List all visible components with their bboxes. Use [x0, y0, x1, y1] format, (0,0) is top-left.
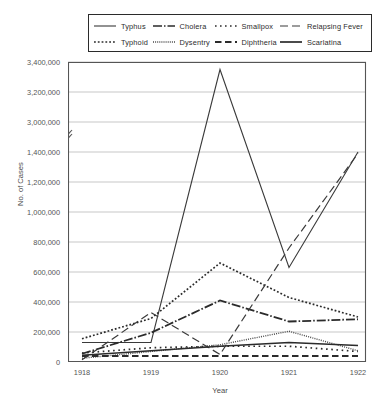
legend-item-typhus: Typhus: [94, 18, 153, 34]
legend-row-2: Typhoid Dysentry Diphtheria Scarlatina: [94, 34, 366, 50]
x-tick-label: 1921: [281, 368, 297, 377]
plot-canvas: [68, 56, 372, 362]
chart-legend: Typhus Cholera Smallpox Relapsing Fever: [88, 14, 372, 52]
line-loose-dotted-swatch: [215, 22, 237, 30]
epidemic-cases-line-chart: Typhus Cholera Smallpox Relapsing Fever: [0, 0, 390, 411]
series-line-relapsing-fever: [82, 154, 358, 360]
legend-label-scarlatina: Scarlatina: [307, 38, 341, 47]
legend-item-relapsing-fever: Relapsing Fever: [280, 18, 366, 34]
legend-row-1: Typhus Cholera Smallpox Relapsing Fever: [94, 18, 366, 34]
line-fine-dotted-swatch: [153, 38, 175, 46]
line-dotted-swatch: [94, 38, 116, 46]
x-tick-label: 1919: [143, 368, 159, 377]
legend-item-smallpox: Smallpox: [215, 18, 280, 34]
y-tick-label: 0: [56, 358, 66, 367]
legend-label-typhus: Typhus: [121, 22, 146, 31]
x-tick-label: 1920: [212, 368, 228, 377]
line-solid-thin-swatch: [280, 38, 302, 46]
y-tick-label: 400,000: [33, 298, 66, 307]
series-line-dysentry: [82, 331, 358, 358]
line-solid-swatch: [94, 22, 116, 30]
plot-area: 0200,000400,000600,000800,0001,000,0001,…: [68, 56, 372, 362]
y-tick-label: 3,400,000: [27, 58, 66, 67]
x-axis-title: Year: [68, 386, 372, 395]
legend-label-dysentry: Dysentry: [180, 38, 210, 47]
legend-label-cholera: Cholera: [180, 22, 207, 31]
legend-label-diphtheria: Diphtheria: [242, 38, 277, 47]
x-tick-label: 1922: [350, 368, 366, 377]
line-dashdot-swatch: [153, 22, 175, 30]
legend-label-typhoid: Typhoid: [121, 38, 148, 47]
y-axis-title: No. of Cases: [16, 162, 25, 206]
y-tick-label: 800,000: [33, 238, 66, 247]
series-line-typhus: [82, 70, 358, 343]
x-tick-label: 1918: [74, 368, 90, 377]
y-tick-label: 600,000: [33, 268, 66, 277]
y-tick-label: 1,200,000: [27, 178, 66, 187]
y-tick-label: 1,400,000: [27, 148, 66, 157]
line-dashed-thick-swatch: [215, 38, 237, 46]
legend-item-scarlatina: Scarlatina: [280, 34, 366, 50]
legend-label-relapsing-fever: Relapsing Fever: [307, 22, 363, 31]
legend-item-cholera: Cholera: [153, 18, 215, 34]
legend-label-smallpox: Smallpox: [242, 22, 274, 31]
line-long-dashed-swatch: [280, 22, 302, 30]
legend-item-typhoid: Typhoid: [94, 34, 153, 50]
y-tick-label: 200,000: [33, 328, 66, 337]
y-tick-label: 3,200,000: [27, 88, 66, 97]
y-tick-label: 1,000,000: [27, 208, 66, 217]
legend-item-diphtheria: Diphtheria: [215, 34, 280, 50]
legend-item-dysentry: Dysentry: [153, 34, 215, 50]
y-tick-label: 3,000,000: [27, 118, 66, 127]
